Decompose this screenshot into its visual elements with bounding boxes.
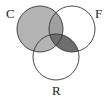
label-r: R bbox=[52, 83, 61, 97]
venn-diagram: C F R bbox=[0, 0, 109, 97]
label-f: F bbox=[95, 6, 102, 21]
label-c: C bbox=[6, 6, 15, 21]
